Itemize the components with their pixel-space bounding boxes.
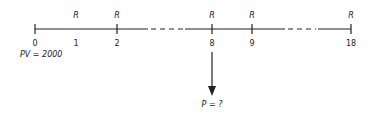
payment-label-8: R	[209, 11, 215, 21]
period-label-2: 2	[114, 39, 119, 49]
arrowhead-icon	[208, 86, 216, 96]
period-label-0: 0	[32, 39, 37, 49]
payment-label-2: R	[114, 11, 120, 21]
period-label-9: 9	[249, 39, 254, 49]
period-label-18: 18	[346, 39, 356, 49]
payment-label-9: R	[249, 11, 255, 21]
payment-label-1: R	[73, 11, 79, 21]
unknown-value-label: P = ?	[202, 100, 223, 110]
payment-label-18: R	[348, 11, 354, 21]
period-label-8: 8	[209, 39, 214, 49]
period-label-1: 1	[73, 39, 78, 49]
present-value-label: PV = 2000	[20, 50, 62, 59]
